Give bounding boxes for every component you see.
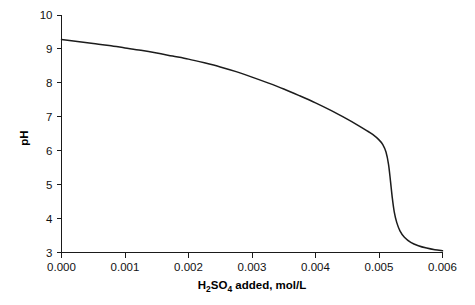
- y-tick-group: [57, 15, 62, 253]
- x-tick-label: 0.001: [111, 261, 140, 273]
- x-tick-group: [62, 253, 443, 258]
- y-tick-label-group: 345678910: [40, 9, 53, 259]
- ph-titration-chart: 345678910 0.0000.0010.0020.0030.0040.005…: [0, 0, 475, 305]
- series-group: [62, 39, 443, 250]
- titration-curve: [62, 39, 443, 250]
- x-tick-label: 0.004: [301, 261, 330, 273]
- chart-figure: 345678910 0.0000.0010.0020.0030.0040.005…: [0, 0, 475, 305]
- y-tick-label: 6: [46, 145, 52, 157]
- y-tick-label: 7: [46, 111, 52, 123]
- y-tick-label: 10: [40, 9, 53, 21]
- y-tick-label: 5: [46, 179, 52, 191]
- y-axis-title: pH: [18, 130, 30, 145]
- y-tick-label: 3: [46, 247, 52, 259]
- x-tick-label-group: 0.0000.0010.0020.0030.0040.0050.006: [47, 261, 457, 273]
- y-tick-label: 8: [46, 77, 52, 89]
- x-tick-label: 0.000: [47, 261, 76, 273]
- x-tick-label: 0.002: [174, 261, 203, 273]
- y-tick-label: 4: [46, 213, 53, 225]
- x-tick-label: 0.003: [238, 261, 267, 273]
- y-tick-label: 9: [46, 43, 52, 55]
- x-tick-label: 0.006: [428, 261, 457, 273]
- x-tick-label: 0.005: [365, 261, 394, 273]
- x-axis-title: H2SO4 added, mol/L: [198, 279, 307, 294]
- axes: [62, 15, 443, 253]
